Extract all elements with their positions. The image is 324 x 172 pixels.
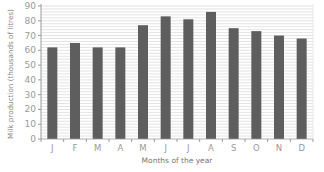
x-tick-label: M bbox=[94, 143, 101, 153]
y-tick-label: 30 bbox=[25, 90, 37, 100]
bar-4 bbox=[138, 25, 148, 139]
bar-1 bbox=[70, 43, 80, 139]
x-tick-label: N bbox=[276, 143, 282, 153]
bar-9 bbox=[251, 31, 261, 139]
y-tick-label: 50 bbox=[25, 60, 37, 70]
bar-10 bbox=[274, 36, 284, 139]
bars bbox=[47, 12, 306, 139]
y-tick-label: 60 bbox=[25, 45, 37, 55]
x-tick-label: M bbox=[139, 143, 146, 153]
y-axis-ticks: 0102030405060708090 bbox=[25, 1, 41, 144]
bar-2 bbox=[93, 47, 103, 139]
y-axis-label: Milk production (thousands of litres) bbox=[6, 9, 15, 139]
x-tick-label: J bbox=[186, 143, 190, 153]
y-tick-label: 40 bbox=[25, 75, 37, 85]
x-tick-label: J bbox=[163, 143, 167, 153]
bar-5 bbox=[161, 16, 171, 139]
x-tick-label: O bbox=[253, 143, 260, 153]
x-tick-label: D bbox=[298, 143, 305, 153]
x-tick-label: J bbox=[50, 143, 54, 153]
axes bbox=[41, 4, 313, 139]
bar-0 bbox=[47, 47, 57, 139]
x-tick-label: A bbox=[208, 143, 214, 153]
x-axis-ticks: JFMAMJJASOND bbox=[41, 139, 313, 153]
x-axis-label: Months of the year bbox=[142, 156, 214, 165]
bar-11 bbox=[297, 39, 307, 139]
x-tick-label: F bbox=[73, 143, 78, 153]
bar-8 bbox=[229, 28, 239, 139]
y-tick-label: 80 bbox=[25, 16, 37, 26]
y-tick-label: 0 bbox=[30, 134, 36, 144]
y-tick-label: 90 bbox=[25, 1, 37, 11]
bar-6 bbox=[183, 19, 193, 139]
y-tick-label: 70 bbox=[25, 31, 37, 41]
x-tick-label: A bbox=[117, 143, 123, 153]
bar-chart: 0102030405060708090 JFMAMJJASOND Milk pr… bbox=[0, 0, 324, 172]
y-tick-label: 10 bbox=[25, 119, 37, 129]
y-tick-label: 20 bbox=[25, 104, 37, 114]
bar-7 bbox=[206, 12, 216, 139]
gridlines bbox=[41, 6, 313, 136]
x-tick-label: S bbox=[231, 143, 236, 153]
bar-3 bbox=[115, 47, 125, 139]
